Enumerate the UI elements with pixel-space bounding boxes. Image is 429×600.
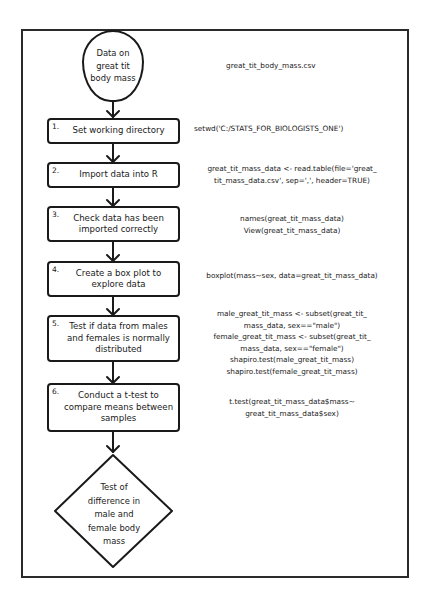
code-step-3: names(great_tit_mass_data) View(great_ti… bbox=[194, 213, 390, 236]
code-step-5: male_great_tit_mass <- subset(great_tit_… bbox=[194, 308, 390, 377]
code-step-1: setwd('C:/STATS_FOR_BIOLOGISTS_ONE') bbox=[194, 123, 343, 135]
end-line: difference in bbox=[64, 495, 164, 509]
code-step-6: t.test(great_tit_mass_data$mass~ great_t… bbox=[194, 396, 390, 419]
code-line: male_great_tit_mass <- subset(great_tit_ bbox=[194, 308, 390, 320]
end-line: male and bbox=[64, 508, 164, 522]
code-line: mass_data, sex=="male") bbox=[194, 320, 390, 332]
end-line: Test of bbox=[64, 481, 164, 495]
start-node-label: Data on great tit body mass bbox=[88, 47, 138, 85]
end-line: mass bbox=[64, 535, 164, 549]
code-line: setwd('C:/STATS_FOR_BIOLOGISTS_ONE') bbox=[194, 123, 343, 135]
step-number: 2. bbox=[52, 165, 59, 177]
code-line: names(great_tit_mass_data) bbox=[194, 213, 390, 225]
step-number: 6. bbox=[52, 386, 59, 398]
code-line: great_tit_mass_data$sex) bbox=[194, 408, 390, 420]
code-line: great_tit_body_mass.csv bbox=[226, 60, 316, 72]
code-start: great_tit_body_mass.csv bbox=[226, 60, 316, 72]
code-line: female_great_tit_mass <- subset(great_ti… bbox=[194, 331, 390, 343]
code-line: boxplot(mass~sex, data=great_tit_mass_da… bbox=[194, 270, 390, 282]
code-line: great_tit_mass_data <- read.table(file='… bbox=[194, 163, 390, 175]
step-2-import-data: 2. Import data into R bbox=[47, 162, 180, 188]
code-step-4: boxplot(mass~sex, data=great_tit_mass_da… bbox=[194, 270, 390, 282]
step-label: Test if data from males and females is n… bbox=[63, 321, 174, 356]
end-node-result: Test of difference in male and female bo… bbox=[64, 481, 164, 549]
code-step-2: great_tit_mass_data <- read.table(file='… bbox=[194, 163, 390, 186]
step-label: Create a box plot to explore data bbox=[63, 268, 174, 291]
code-line: tit_mass_data.csv', sep=',', header=TRUE… bbox=[194, 175, 390, 187]
step-label: Check data has been imported correctly bbox=[63, 213, 174, 236]
step-label: Import data into R bbox=[79, 169, 158, 181]
step-6-t-test: 6. Conduct a t-test to compare means bet… bbox=[47, 383, 180, 432]
start-node-data-source: Data on great tit body mass bbox=[82, 30, 144, 102]
step-5-normality-test: 5. Test if data from males and females i… bbox=[47, 315, 180, 362]
code-line: shapiro.test(male_great_tit_mass) bbox=[194, 354, 390, 366]
step-number: 1. bbox=[52, 121, 59, 133]
code-line: mass_data, sex=="female") bbox=[194, 343, 390, 355]
step-1-set-working-directory: 1. Set working directory bbox=[47, 118, 180, 144]
step-number: 4. bbox=[52, 264, 59, 276]
step-number: 5. bbox=[52, 318, 59, 330]
code-line: View(great_tit_mass_data) bbox=[194, 225, 390, 237]
step-label: Conduct a t-test to compare means betwee… bbox=[63, 390, 174, 425]
step-number: 3. bbox=[52, 209, 59, 221]
step-label: Set working directory bbox=[72, 125, 164, 137]
step-3-check-data: 3. Check data has been imported correctl… bbox=[47, 206, 180, 242]
end-line: female body bbox=[64, 522, 164, 536]
step-4-box-plot: 4. Create a box plot to explore data bbox=[47, 261, 180, 297]
code-line: shapiro.test(female_great_tit_mass) bbox=[194, 366, 390, 378]
code-line: t.test(great_tit_mass_data$mass~ bbox=[194, 396, 390, 408]
